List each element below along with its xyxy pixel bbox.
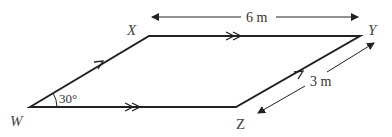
angle-label: 30°	[59, 91, 77, 106]
vertex-label-w: W	[10, 113, 24, 129]
angle-arc-w	[53, 93, 57, 107]
side-dimension-line-upper	[327, 43, 374, 72]
vertex-label-y: Y	[368, 22, 378, 38]
parallelogram-diagram: 30° 6 m 3 m W X Y Z	[0, 0, 392, 137]
vertex-label-x: X	[126, 22, 137, 38]
top-dimension-label: 6 m	[246, 10, 268, 25]
side-dimension-label: 3 m	[310, 74, 332, 89]
vertex-label-z: Z	[236, 116, 245, 132]
parallelogram-shape	[30, 36, 360, 107]
